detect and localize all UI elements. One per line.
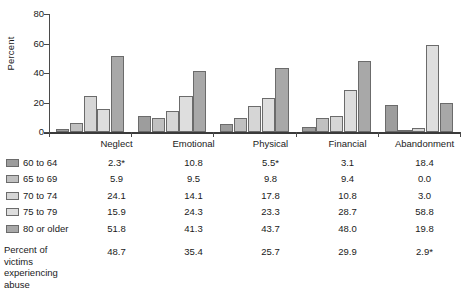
table-row: 75 to 7915.924.323.328.758.8 xyxy=(0,204,463,221)
y-tick-mark-60 xyxy=(44,44,49,45)
legend-label: 80 or older xyxy=(23,223,68,234)
bar-group-financial xyxy=(296,14,378,132)
bar-neglect-60-to-64 xyxy=(56,129,69,132)
bar-financial-80-or-older xyxy=(358,61,371,132)
bar-neglect-70-to-74 xyxy=(84,96,97,132)
y-tick-label-40: 40 xyxy=(33,68,44,78)
table-body: 60 to 642.3*10.85.5*3.118.465 to 695.99.… xyxy=(0,155,463,290)
cell-physical-60-to-64: 5.5* xyxy=(232,155,309,172)
bar-financial-60-to-64 xyxy=(302,127,315,132)
cell-financial-70-to-74: 10.8 xyxy=(309,188,386,205)
cell-financial-60-to-64: 3.1 xyxy=(309,155,386,172)
bar-emotional-60-to-64 xyxy=(138,116,151,132)
legend-item-65-to-69: 65 to 69 xyxy=(0,171,78,188)
legend-label: 60 to 64 xyxy=(23,157,57,168)
bar-group-neglect xyxy=(49,14,131,132)
table-header-row: NeglectEmotionalPhysicalFinancialAbandon… xyxy=(0,136,463,155)
y-tick-mark-20 xyxy=(44,103,49,104)
column-header-abandonment: Abandonment xyxy=(386,136,463,155)
cell-emotional-75-to-79: 24.3 xyxy=(155,204,232,221)
cell-physical-65-to-69: 9.8 xyxy=(232,171,309,188)
bar-physical-65-to-69 xyxy=(234,118,247,132)
legend-item-60-to-64: 60 to 64 xyxy=(0,155,78,172)
column-header-neglect: Neglect xyxy=(78,136,155,155)
bar-financial-75-to-79 xyxy=(344,90,357,132)
y-tick-label-80: 80 xyxy=(33,9,44,19)
column-header-physical: Physical xyxy=(232,136,309,155)
footer-cell-neglect: 48.7 xyxy=(78,237,155,290)
legend-swatch-icon xyxy=(6,159,19,167)
legend-label: 70 to 74 xyxy=(23,190,57,201)
table-row: 70 to 7424.114.117.810.83.0 xyxy=(0,188,463,205)
bar-abandonment-65-to-69 xyxy=(398,130,411,132)
bar-abandonment-70-to-74 xyxy=(412,128,425,132)
bar-neglect-75-to-79 xyxy=(97,109,110,132)
bar-physical-80-or-older xyxy=(275,68,288,132)
cell-neglect-75-to-79: 15.9 xyxy=(78,204,155,221)
cell-emotional-80-or-older: 41.3 xyxy=(155,221,232,238)
bar-physical-75-to-79 xyxy=(262,98,275,132)
legend-swatch-icon xyxy=(6,225,19,233)
y-tick-mark-80 xyxy=(44,14,49,15)
cell-abandonment-60-to-64: 18.4 xyxy=(386,155,463,172)
column-header-financial: Financial xyxy=(309,136,386,155)
bar-emotional-75-to-79 xyxy=(179,96,192,132)
cell-emotional-70-to-74: 14.1 xyxy=(155,188,232,205)
bar-abandonment-60-to-64 xyxy=(385,105,398,132)
bar-emotional-65-to-69 xyxy=(152,118,165,132)
y-axis-label: Percent xyxy=(5,24,16,84)
table: NeglectEmotionalPhysicalFinancialAbandon… xyxy=(0,136,463,290)
footer-cell-financial: 29.9 xyxy=(309,237,386,290)
cell-physical-70-to-74: 17.8 xyxy=(232,188,309,205)
column-header-emotional: Emotional xyxy=(155,136,232,155)
cell-neglect-65-to-69: 5.9 xyxy=(78,171,155,188)
bar-chart: Percent 806040200 xyxy=(0,0,463,140)
bar-physical-70-to-74 xyxy=(248,106,261,132)
legend-item-80-or-older: 80 or older xyxy=(0,221,78,238)
cell-emotional-65-to-69: 9.5 xyxy=(155,171,232,188)
table-row: 80 or older51.841.343.748.019.8 xyxy=(0,221,463,238)
cell-neglect-80-or-older: 51.8 xyxy=(78,221,155,238)
legend-swatch-icon xyxy=(6,192,19,200)
legend-label: 75 to 79 xyxy=(23,206,57,217)
bar-neglect-65-to-69 xyxy=(70,123,83,132)
bar-emotional-70-to-74 xyxy=(166,111,179,132)
bar-physical-60-to-64 xyxy=(220,124,233,132)
y-tick-label-20: 20 xyxy=(33,98,44,108)
cell-financial-75-to-79: 28.7 xyxy=(309,204,386,221)
legend-label: 65 to 69 xyxy=(23,173,57,184)
legend-item-70-to-74: 70 to 74 xyxy=(0,188,78,205)
cell-neglect-60-to-64: 2.3* xyxy=(78,155,155,172)
cell-abandonment-70-to-74: 3.0 xyxy=(386,188,463,205)
cell-abandonment-65-to-69: 0.0 xyxy=(386,171,463,188)
cell-financial-65-to-69: 9.4 xyxy=(309,171,386,188)
y-tick-mark-40 xyxy=(44,73,49,74)
data-table: NeglectEmotionalPhysicalFinancialAbandon… xyxy=(0,136,463,264)
footer-cell-abandonment: 2.9* xyxy=(386,237,463,290)
legend-swatch-icon xyxy=(6,208,19,216)
table-row: 65 to 695.99.59.89.40.0 xyxy=(0,171,463,188)
plot-area xyxy=(49,14,460,132)
bar-group-abandonment xyxy=(378,14,460,132)
bar-group-physical xyxy=(213,14,295,132)
bar-abandonment-75-to-79 xyxy=(426,45,439,132)
cell-physical-80-or-older: 43.7 xyxy=(232,221,309,238)
bar-financial-65-to-69 xyxy=(316,118,329,132)
table-row: 60 to 642.3*10.85.5*3.118.4 xyxy=(0,155,463,172)
bar-abandonment-80-or-older xyxy=(440,103,453,132)
bar-group-emotional xyxy=(131,14,213,132)
footer-cell-physical: 25.7 xyxy=(232,237,309,290)
cell-physical-75-to-79: 23.3 xyxy=(232,204,309,221)
cell-emotional-60-to-64: 10.8 xyxy=(155,155,232,172)
legend-item-75-to-79: 75 to 79 xyxy=(0,204,78,221)
footer-label: Percent of victimsexperiencingabuse xyxy=(0,237,78,290)
legend-swatch-icon xyxy=(6,175,19,183)
table-footer-row: Percent of victimsexperiencingabuse48.73… xyxy=(0,237,463,290)
y-axis-tick-labels: 806040200 xyxy=(22,14,44,132)
cell-neglect-70-to-74: 24.1 xyxy=(78,188,155,205)
footer-label-line-3: abuse xyxy=(4,279,78,290)
cell-abandonment-80-or-older: 19.8 xyxy=(386,221,463,238)
table-corner xyxy=(0,136,78,155)
x-axis-line xyxy=(44,132,460,134)
